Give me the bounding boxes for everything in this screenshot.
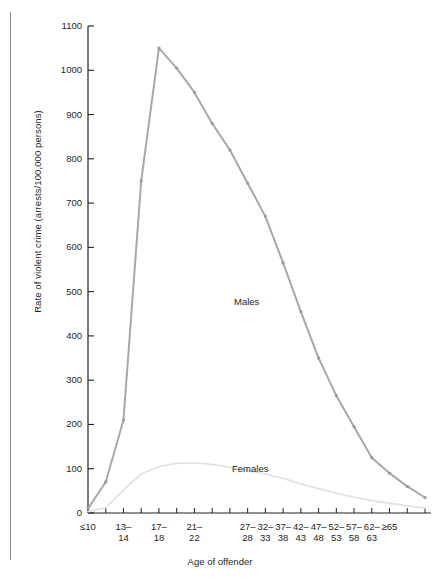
y-tick-label: 200 xyxy=(42,419,82,429)
y-tick-label: 600 xyxy=(42,242,82,252)
x-tick-label: ≥65 xyxy=(370,521,410,532)
x-tick-label: 17–18 xyxy=(139,521,179,543)
x-axis-title: Age of offender xyxy=(0,556,440,567)
y-tick-label: 400 xyxy=(42,331,82,341)
chart-figure: Rate of violent crime (arrests/100,000 p… xyxy=(0,0,440,587)
x-tick-label: 21–22 xyxy=(174,521,214,543)
y-tick-label: 800 xyxy=(42,154,82,164)
y-tick-label: 100 xyxy=(42,464,82,474)
y-axis-title: Rate of violent crime (arrests/100,000 p… xyxy=(32,57,43,367)
x-tick-label: ≤10 xyxy=(68,521,108,532)
series-group xyxy=(87,47,427,512)
y-tick-label: 1000 xyxy=(42,65,82,75)
y-tick-label: 0 xyxy=(42,508,82,518)
x-tick-label: 13–14 xyxy=(103,521,143,543)
y-tick-label: 300 xyxy=(42,375,82,385)
y-tick-label: 500 xyxy=(42,287,82,297)
y-tick-label: 900 xyxy=(42,110,82,120)
series-label-males: Males xyxy=(234,296,259,307)
y-tick-label: 1100 xyxy=(42,21,82,31)
axes-group xyxy=(88,26,431,513)
series-label-females: Females xyxy=(232,463,268,474)
y-tick-label: 700 xyxy=(42,198,82,208)
